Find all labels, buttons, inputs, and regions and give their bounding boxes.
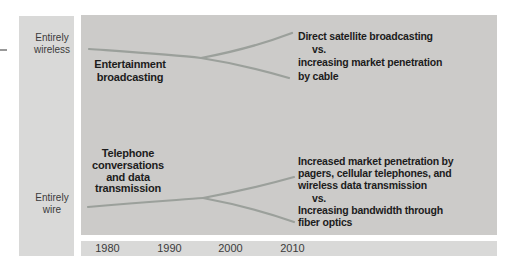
annotation-line: Direct satellite broadcasting <box>298 30 442 43</box>
annotation-line: fiber optics <box>298 216 453 228</box>
telephone-conversations-label: Telephone conversations and data transmi… <box>89 148 167 195</box>
cable-branch-line <box>201 58 289 78</box>
annotation-line: Increased market penetration by <box>298 155 453 167</box>
entertainment-broadcasting-label: Entertainment broadcasting <box>91 58 169 83</box>
y-axis-label-wire: Entirely wire <box>22 192 82 215</box>
wireless-vs-fiber-annotation: Increased market penetration by pagers, … <box>298 155 453 228</box>
annotation-line: pagers, cellular telephones, and <box>298 167 453 179</box>
x-tick-2010: 2010 <box>271 242 315 254</box>
x-tick-1980: 1980 <box>86 242 130 254</box>
satellite-vs-cable-annotation: Direct satellite broadcasting vs. increa… <box>298 30 442 83</box>
negroponte-switch-diagram: Entirely wireless Entirely wire 1980 199… <box>0 0 518 279</box>
annotation-line: by cable <box>298 70 442 83</box>
vs-label: vs. <box>298 43 442 56</box>
x-tick-1990: 1990 <box>148 242 192 254</box>
x-tick-2000: 2000 <box>209 242 253 254</box>
telephone-trend-line <box>88 198 203 207</box>
annotation-line: wireless data transmission <box>298 179 453 191</box>
fiber-branch-line <box>203 198 294 222</box>
annotation-line: increasing market penetration <box>298 56 442 69</box>
annotation-line: Increasing bandwidth through <box>298 204 453 216</box>
satellite-branch-line <box>201 33 292 58</box>
y-axis-label-wireless: Entirely wireless <box>22 32 82 55</box>
vs-label: vs. <box>298 192 453 204</box>
wireless-branch-line <box>203 177 294 198</box>
entertainment-trend-line <box>89 49 201 58</box>
